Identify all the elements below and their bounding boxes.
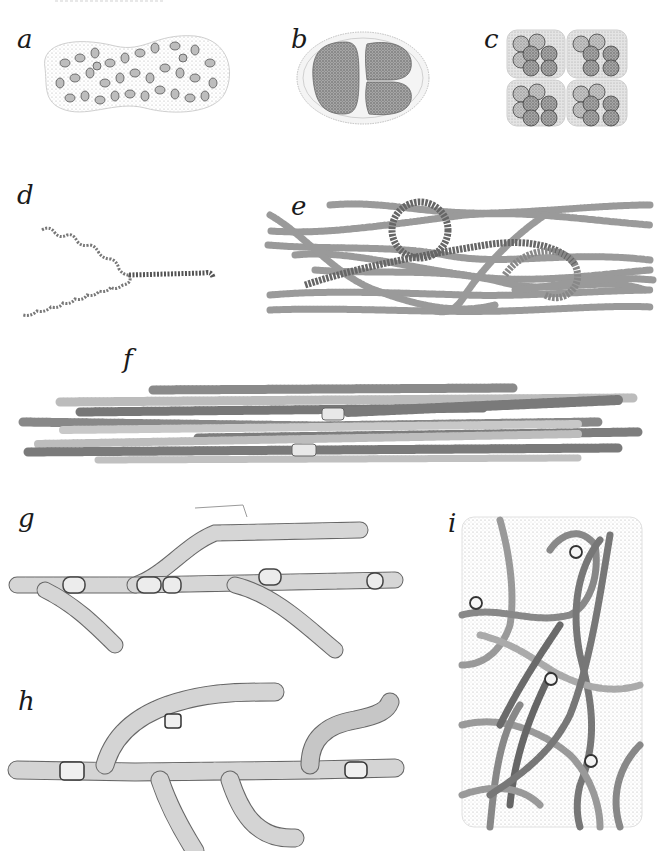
panel-a-colony — [35, 28, 235, 118]
panel-d-spiral-filaments — [15, 225, 225, 320]
panel-c-cell-packets — [505, 28, 630, 128]
panel-label-a: a — [17, 26, 33, 52]
panel-g-false-branched-filaments — [15, 495, 400, 655]
panel-i-moniliform-filaments — [460, 515, 645, 830]
panel-label-d: d — [17, 182, 34, 208]
panel-label-f: f — [123, 346, 133, 372]
panel-label-i: i — [448, 510, 456, 536]
header-text-fragment — [55, 0, 165, 2]
panel-label-c: c — [484, 26, 499, 52]
illustration-plate: a — [0, 0, 657, 851]
panel-e-tangled-trichomes — [265, 195, 657, 325]
panel-b-two-cell-colony — [295, 30, 435, 125]
panel-f-parallel-filaments — [18, 382, 648, 462]
panel-h-branched-filament — [15, 670, 400, 851]
